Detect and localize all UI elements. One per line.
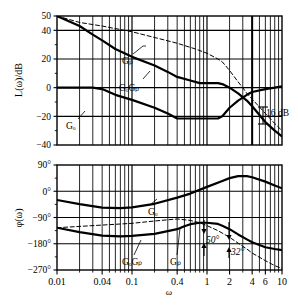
magnitude-curve-label-gp: Gₚ	[122, 56, 133, 66]
y-tick-label-phase: −90°	[32, 213, 51, 223]
x-tick-label: 4	[250, 276, 255, 287]
x-tick-label: 1	[205, 276, 210, 287]
phase-margin-label-50: 50°	[206, 235, 220, 245]
x-tick-label: 6	[263, 276, 268, 287]
y-tick-label-phase: 0°	[42, 187, 51, 197]
y-tick-label-magnitude: −20	[36, 112, 51, 122]
x-axis-title: ω	[166, 287, 172, 297]
phase-curve-label-gogp: GₒGₚ	[122, 257, 142, 267]
x-tick-label: 0.1	[126, 276, 139, 287]
y-tick-label-magnitude: 50	[42, 11, 52, 21]
y-tick-label-magnitude: 40	[42, 26, 52, 36]
x-tick-label: 0.01	[48, 276, 66, 287]
y-tick-label-magnitude: 0	[46, 83, 51, 93]
gain-margin-label: 16 dB	[266, 108, 289, 118]
figure-background	[0, 0, 298, 308]
y-tick-label-phase: 90°	[38, 160, 52, 170]
x-tick-label: 10	[277, 276, 287, 287]
phase-curve-label-gp: Gₚ	[170, 257, 181, 267]
phase-margin-label-32: 32°	[230, 247, 245, 257]
x-tick-label: 2	[227, 276, 232, 287]
y-tick-label-phase: −180°	[28, 239, 52, 249]
bode-plot-figure: 5040200−20−40 16 dB Gₚ GₒGₚ Gₒ L(ω)/dB	[0, 0, 298, 308]
bode-plot-svg: 5040200−20−40 16 dB Gₚ GₒGₚ Gₒ L(ω)/dB	[0, 0, 298, 308]
magnitude-y-axis-title: L(ω)/dB	[13, 63, 25, 97]
y-tick-label-magnitude: −40	[36, 140, 51, 150]
x-tick-label: 0.04	[93, 276, 111, 287]
phase-curve-label-go: Gₒ	[148, 207, 158, 217]
magnitude-curve-label-go: Gₒ	[66, 121, 76, 131]
x-tick-label: 0.4	[171, 276, 184, 287]
y-tick-label-magnitude: 20	[42, 54, 52, 64]
y-tick-label-phase: −270°	[28, 265, 52, 275]
phase-y-axis-title: φ(ω)	[13, 208, 25, 227]
magnitude-curve-label-gogp: GₒGₚ	[119, 83, 139, 93]
